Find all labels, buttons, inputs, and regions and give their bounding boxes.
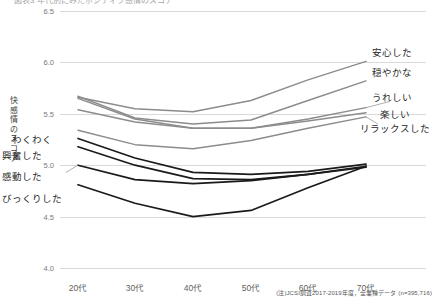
series-line-興奮した	[78, 147, 366, 180]
series-label-楽しい: 楽しい	[380, 107, 410, 121]
series-label-興奮した: 興奮した	[2, 148, 42, 162]
series-label-わくわく: わくわく	[12, 132, 52, 146]
y-axis-tick-label: 6.0	[44, 58, 54, 67]
series-label-感動した: 感動した	[2, 169, 42, 183]
series-label-びっくりした: びっくりした	[2, 191, 62, 205]
y-axis-tick-label: 5.5	[44, 109, 54, 118]
y-axis-tick-label: 6.5	[44, 7, 54, 16]
y-axis-title-char: 情	[6, 115, 21, 125]
y-axis-title-char: 感	[6, 106, 21, 116]
y-axis-tick-label: 4.5	[44, 212, 54, 221]
series-line-安心した	[78, 61, 366, 111]
series-line-感動した	[78, 165, 366, 184]
series-label-穏やかな: 穏やかな	[372, 65, 412, 79]
gridline	[60, 268, 426, 269]
series-line-わくわく	[78, 138, 366, 174]
plot-area: 6.56.05.55.04.54.0 20代30代40代50代60代70代 安心…	[60, 11, 426, 268]
y-axis-title-char: 快	[6, 96, 21, 106]
x-axis-tick-40代: 40代	[184, 281, 202, 293]
series-label-リラックスした: リラックスした	[360, 121, 430, 135]
y-axis-tick-label: 4.0	[44, 264, 54, 273]
y-axis-tick-label: 5.0	[44, 161, 54, 170]
emotion-score-line-chart: 図表3 年代別にみたポジティブ感情のスコア 快感情のスコア 6.56.05.55…	[0, 0, 436, 307]
x-axis-tick-20代: 20代	[69, 281, 87, 293]
source-footnote: (注)JCSI調査2017-2019年度，全業種データ (n=395,716)	[276, 288, 432, 297]
x-axis-tick-50代: 50代	[242, 281, 260, 293]
label-leader-line	[66, 165, 78, 172]
x-axis-tick-30代: 30代	[126, 281, 144, 293]
series-line-穏やかな	[78, 81, 366, 124]
series-label-うれしい: うれしい	[372, 90, 412, 104]
chart-title-clipped: 図表3 年代別にみたポジティブ感情のスコア	[14, 0, 334, 6]
series-line-うれしい	[78, 98, 366, 128]
series-label-安心した: 安心した	[372, 45, 412, 59]
